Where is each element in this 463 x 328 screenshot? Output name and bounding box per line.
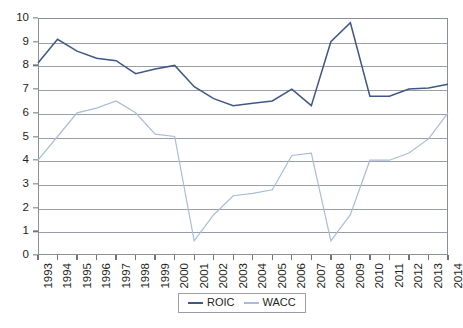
series-lines [38,18,448,255]
y-tick-label-2: 2 [23,202,29,214]
x-tick-mark-2001 [194,255,195,260]
x-tick-mark-2010 [369,255,370,260]
y-tick-label-9: 9 [23,36,29,48]
x-tick-mark-2008 [330,255,331,260]
x-tick-label-2009: 2009 [355,263,367,289]
x-tick-mark-2005 [272,255,273,260]
x-tick-label-2004: 2004 [257,263,269,289]
x-tick-label-1998: 1998 [140,263,152,289]
y-tick-label-5: 5 [23,131,29,143]
legend-item-wacc: WACC [244,297,296,308]
x-tick-mark-2009 [350,255,351,260]
x-tick-label-2011: 2011 [394,263,406,288]
x-tick-label-2014: 2014 [453,263,463,289]
x-tick-mark-1999 [154,255,155,260]
x-tick-label-2003: 2003 [238,263,250,289]
y-tick-label-0: 0 [23,249,29,261]
x-tick-mark-2011 [389,255,390,260]
legend-label-roic: ROIC [207,297,235,308]
x-tick-mark-2000 [174,255,175,260]
x-tick-label-1993: 1993 [43,263,55,289]
chart-legend: ROICWACC [178,293,306,313]
roic-wacc-line-chart: 012345678910 199319941995199619971998199… [0,0,463,328]
legend-swatch-roic [188,302,203,304]
y-tick-label-1: 1 [23,226,29,238]
x-tick-mark-1993 [37,255,38,260]
y-tick-label-4: 4 [23,154,29,166]
x-tick-label-2008: 2008 [335,263,347,289]
x-tick-label-2012: 2012 [413,263,425,289]
series-line-roic [38,23,448,106]
x-tick-mark-1994 [57,255,58,260]
x-tick-label-2013: 2013 [433,263,445,289]
x-tick-mark-2003 [233,255,234,260]
y-tick-label-7: 7 [23,83,29,95]
x-tick-mark-1997 [115,255,116,260]
x-tick-label-1999: 1999 [160,263,172,289]
y-tick-label-8: 8 [23,60,29,72]
x-tick-label-2000: 2000 [179,263,191,289]
y-tick-label-3: 3 [23,178,29,190]
x-tick-label-1997: 1997 [121,263,133,289]
y-axis: 012345678910 [0,0,38,255]
x-tick-label-2001: 2001 [199,263,211,289]
x-tick-mark-2004 [252,255,253,260]
x-tick-label-2007: 2007 [316,263,328,289]
x-tick-mark-2014 [447,255,448,260]
x-tick-label-2002: 2002 [218,263,230,289]
x-tick-label-2010: 2010 [374,263,386,289]
x-tick-label-2006: 2006 [296,263,308,289]
x-tick-label-2005: 2005 [277,263,289,289]
legend-swatch-wacc [244,302,259,304]
x-tick-label-1995: 1995 [82,263,94,289]
legend-item-roic: ROIC [188,297,235,308]
x-tick-mark-2007 [311,255,312,260]
series-line-wacc [38,101,448,241]
x-tick-mark-2012 [408,255,409,260]
x-tick-mark-2002 [213,255,214,260]
x-tick-mark-2006 [291,255,292,260]
x-tick-mark-1996 [96,255,97,260]
x-tick-mark-2013 [428,255,429,260]
x-tick-mark-1995 [76,255,77,260]
x-tick-label-1994: 1994 [62,263,74,289]
y-tick-label-10: 10 [16,12,29,24]
legend-label-wacc: WACC [263,297,296,308]
x-tick-mark-1998 [135,255,136,260]
y-tick-label-6: 6 [23,107,29,119]
x-tick-label-1996: 1996 [101,263,113,289]
